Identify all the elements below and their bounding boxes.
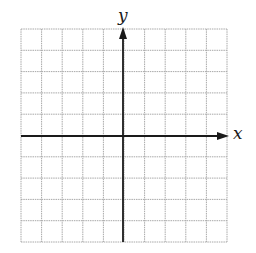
y-axis-label: y: [118, 7, 128, 24]
x-axis-label: x: [233, 125, 243, 142]
coordinate-plane: [0, 0, 256, 253]
axes: [21, 27, 229, 242]
